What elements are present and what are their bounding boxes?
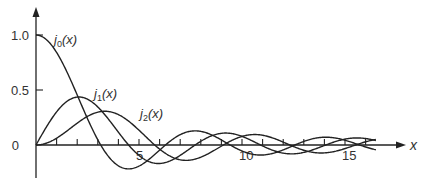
- x-axis-label: x: [409, 137, 418, 153]
- curve-j0: [36, 35, 376, 169]
- label-j1: j1(x): [92, 86, 117, 103]
- y-axis-arrow-icon: [33, 7, 40, 17]
- bessel-chart: x 51015 00.51.0 j0(x) j1(x) j2(x): [0, 0, 430, 186]
- y-tick-label: 1.0: [11, 28, 29, 43]
- x-axis-arrow-icon: [396, 142, 406, 149]
- y-tick-label: 0.5: [11, 83, 29, 98]
- x-tick-label: 15: [342, 148, 356, 163]
- label-j0: j0(x): [52, 32, 77, 49]
- x-ticks: [57, 139, 366, 145]
- y-tick-label: 0: [12, 138, 19, 153]
- label-j2: j2(x): [138, 106, 163, 123]
- y-ticks: 00.51.0: [11, 28, 43, 153]
